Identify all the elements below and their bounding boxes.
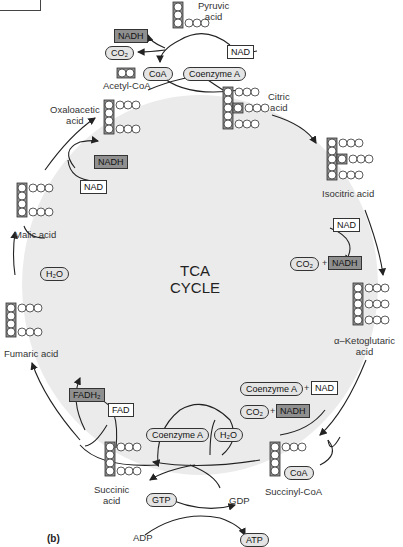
label-isocitric-acid: Isocitric acid	[322, 189, 374, 200]
label-malic-acid: Malic acid	[14, 230, 56, 241]
label-citric-acid: Citricacid	[268, 92, 290, 113]
figure-label: (b)	[47, 533, 60, 544]
nad-box-malate: NAD	[80, 180, 107, 194]
nad-box-pyruvate: NAD	[227, 45, 254, 59]
label-adp: ADP	[133, 533, 153, 544]
h2o-oval-fumarate: H₂O	[40, 267, 69, 281]
nadh-box-isocitrate: NADH	[328, 256, 362, 270]
h2o-oval-bottom: H₂O	[214, 428, 243, 442]
label-succinic-acid: Succinicacid	[94, 485, 129, 506]
co2-oval-pyruvate: CO₂	[105, 46, 134, 60]
coa-oval-acetyl: CoA	[143, 67, 173, 81]
plus-ketoglutarate-2: +	[270, 405, 275, 417]
fadh2-box: FADH₂	[69, 388, 105, 402]
nadh-box-ketoglutarate: NADH	[276, 404, 310, 418]
label-ketoglutaric-acid: α–Ketoglutaricacid	[334, 336, 395, 357]
fad-box: FAD	[108, 403, 134, 417]
nad-box-ketoglutarate: NAD	[311, 381, 338, 395]
ketoglutaric-skeleton	[353, 283, 389, 325]
plus-ketoglutarate-1: +	[304, 382, 309, 394]
nad-box-isocitrate: NAD	[333, 218, 360, 232]
label-succinyl-coa: Succinyl-CoA	[265, 487, 322, 498]
coenzyme-a-oval-bottom: Coenzyme A	[146, 428, 209, 442]
coenzyme-a-oval-top: Coenzyme A	[183, 67, 246, 81]
label-pyruvic-acid: Pyruvicacid	[198, 1, 229, 22]
co2-oval-isocitrate: CO₂	[290, 257, 319, 271]
isocitric-skeleton	[327, 138, 373, 180]
diagram-title: TCACYCLE	[170, 262, 220, 296]
acetyl-skeleton	[117, 68, 135, 78]
gtp-oval: GTP	[146, 493, 177, 507]
nadh-box-pyruvate: NADH	[114, 29, 148, 43]
co2-oval-ketoglutarate: CO₂	[240, 405, 269, 419]
label-gdp: GDP	[229, 496, 250, 507]
label-acetyl-coa: Acetyl-CoA	[103, 81, 151, 92]
coa-oval-succinylcoa: CoA	[284, 466, 314, 480]
atp-oval: ATP	[240, 533, 269, 547]
label-oxaloacetic-acid: Oxaloaceticacid	[50, 105, 100, 126]
nadh-box-malate: NADH	[94, 155, 128, 169]
label-fumaric-acid: Fumaric acid	[4, 349, 58, 360]
coenzyme-a-oval-ketoglutarate: Coenzyme A	[240, 382, 303, 396]
plus-isocitrate: +	[322, 257, 327, 269]
